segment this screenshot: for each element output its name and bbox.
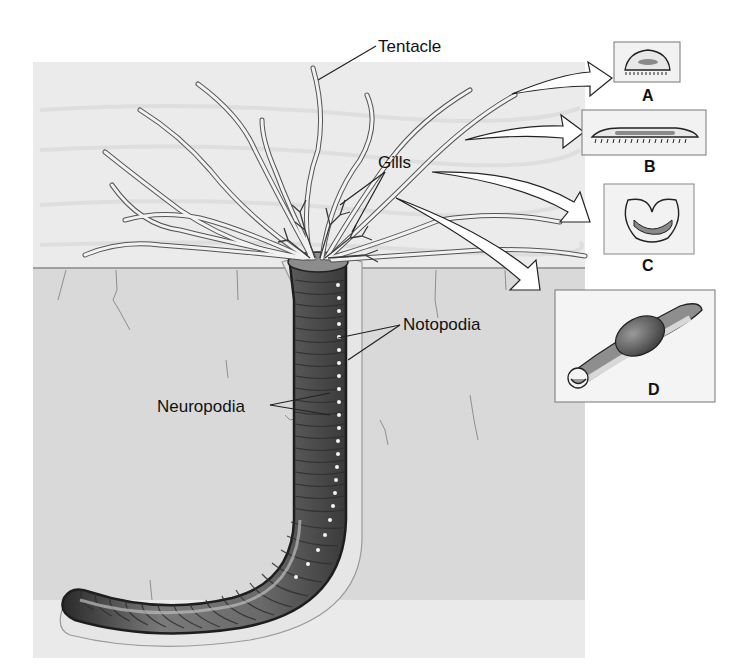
- polychaete-diagram: Tentacle Gills Notopodia Neuropodia A B …: [0, 0, 744, 668]
- label-tentacle: Tentacle: [378, 38, 441, 55]
- inset-a-letter: A: [642, 88, 654, 104]
- label-notopodia: Notopodia: [403, 316, 481, 333]
- inset-d-letter: D: [648, 382, 660, 398]
- inset-d-drawing: [555, 290, 715, 402]
- inset-b-letter: B: [644, 159, 656, 175]
- illustration: [0, 0, 744, 668]
- label-neuropodia: Neuropodia: [157, 398, 245, 415]
- inset-c-drawing: [604, 184, 694, 254]
- inset-b-drawing: [582, 110, 706, 155]
- inset-c-letter: C: [642, 258, 654, 274]
- label-gills: Gills: [378, 154, 411, 171]
- inset-a-drawing: [614, 42, 680, 82]
